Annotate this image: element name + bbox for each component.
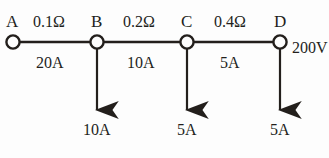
branch-current-label-c: 5A	[177, 122, 197, 138]
node-B	[90, 35, 103, 48]
current-label-bc: 10A	[127, 55, 155, 71]
node-label-d: D	[274, 13, 286, 30]
node-label-a: A	[6, 13, 18, 30]
circuit-diagram: A B C D 0.1Ω 0.2Ω 0.4Ω 20A 10A 5A 10A 5A…	[0, 0, 329, 158]
current-label-cd: 5A	[220, 55, 240, 71]
branch-current-label-b: 10A	[83, 122, 111, 138]
resistance-label-cd: 0.4Ω	[214, 14, 246, 30]
resistance-label-ab: 0.1Ω	[33, 14, 65, 30]
current-label-ab: 20A	[36, 55, 64, 71]
node-A	[6, 35, 19, 48]
resistance-label-bc: 0.2Ω	[123, 14, 155, 30]
node-label-c: C	[181, 13, 192, 30]
node-label-b: B	[91, 13, 102, 30]
node-C	[180, 35, 193, 48]
branch-current-label-d: 5A	[270, 122, 290, 138]
source-voltage-label: 200V	[292, 40, 328, 56]
node-D	[273, 35, 286, 48]
